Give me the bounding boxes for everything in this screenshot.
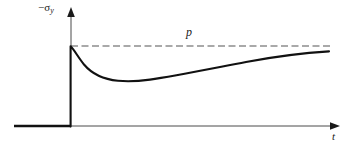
x-axis-label: t: [332, 130, 335, 142]
x-axis-arrowhead: [330, 122, 340, 130]
stress-relaxation-curve: [71, 46, 329, 126]
y-axis-label: −σy: [38, 1, 54, 15]
pressure-level-label: p: [186, 25, 192, 40]
plot-canvas: [0, 0, 344, 147]
y-axis-label-minus: −σ: [38, 1, 50, 13]
y-axis-label-subscript: y: [50, 6, 54, 15]
y-axis-arrowhead: [67, 7, 75, 17]
stress-relaxation-figure: −σy t p: [0, 0, 344, 147]
